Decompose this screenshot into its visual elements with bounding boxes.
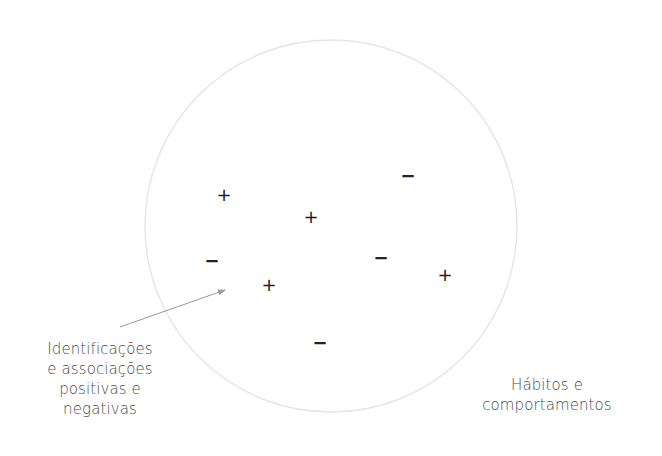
label-line: negativas <box>20 399 180 419</box>
label-line: Hábitos e <box>462 375 632 395</box>
label-line: comportamentos <box>462 395 632 415</box>
minus-sign: − <box>400 167 415 185</box>
plus-sign: + <box>303 208 318 226</box>
plus-sign: + <box>437 266 452 284</box>
label-line: e associações <box>20 359 180 379</box>
minus-sign: − <box>204 252 219 270</box>
minus-sign: − <box>373 249 388 267</box>
label-line: Identificações <box>20 339 180 359</box>
minus-sign: − <box>312 334 327 352</box>
label-line: positivas e <box>20 379 180 399</box>
identifications-label: Identificações e associações positivas e… <box>20 339 180 419</box>
diagram-canvas: + + − − − + + − Identificações e associa… <box>0 0 662 456</box>
plus-sign: + <box>216 186 231 204</box>
habits-circle <box>145 40 517 412</box>
habits-label: Hábitos e comportamentos <box>462 375 632 415</box>
plus-sign: + <box>261 276 276 294</box>
pointer-arrow <box>120 290 225 327</box>
